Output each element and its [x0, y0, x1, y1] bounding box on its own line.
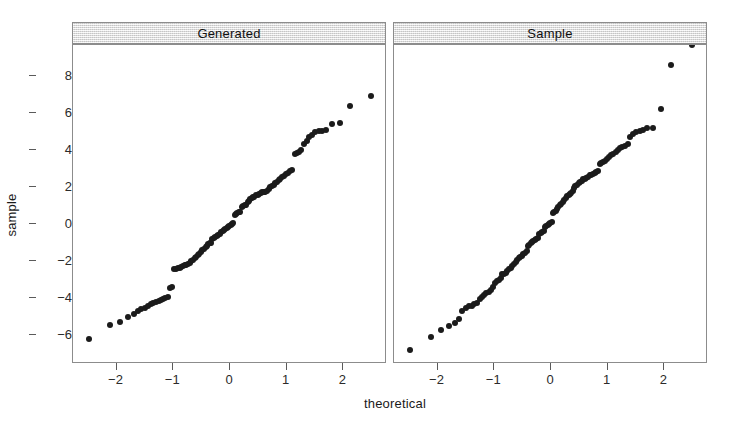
data-point [169, 284, 175, 290]
x-tick-label: 2 [327, 372, 357, 387]
y-tick-label: 0 [38, 215, 72, 230]
x-tick-mark [607, 363, 608, 370]
data-point [668, 62, 674, 68]
data-point [625, 141, 631, 147]
data-point [329, 121, 335, 127]
data-point [230, 220, 236, 226]
x-tick-mark [493, 363, 494, 370]
plot-area [72, 44, 386, 363]
x-tick-label: 2 [648, 372, 678, 387]
y-tick-mark [29, 260, 36, 261]
x-tick-mark [229, 363, 230, 370]
x-tick-label: −1 [157, 372, 187, 387]
data-point [298, 147, 304, 153]
x-tick-mark [550, 363, 551, 370]
data-point [323, 127, 329, 133]
data-point [456, 316, 462, 322]
x-tick-mark [116, 363, 117, 370]
data-point [107, 322, 113, 328]
data-point [689, 44, 695, 48]
panel-strip-label: Generated [72, 22, 386, 44]
x-axis-label: theoretical [72, 396, 718, 411]
data-point [658, 106, 664, 112]
x-tick-label: −2 [101, 372, 131, 387]
data-point [337, 120, 343, 126]
data-point [117, 319, 123, 325]
y-tick-label: 8 [38, 67, 72, 82]
data-point [347, 103, 353, 109]
y-tick-mark [29, 149, 36, 150]
y-tick-label: 4 [38, 141, 72, 156]
y-tick-mark [29, 297, 36, 298]
y-tick-mark [29, 186, 36, 187]
y-tick-label: −2 [38, 253, 72, 268]
data-point [428, 334, 434, 340]
x-tick-label: 0 [535, 372, 565, 387]
data-point [368, 93, 374, 99]
data-point [407, 347, 413, 353]
y-axis: 86420−2−4−6 [29, 0, 72, 430]
x-tick-label: −2 [422, 372, 452, 387]
y-tick-label: −6 [38, 327, 72, 342]
data-point [438, 327, 444, 333]
qq-plot-figure: sample 86420−2−4−6 Generated−2−1012Sampl… [0, 0, 734, 430]
x-tick-label: 1 [592, 372, 622, 387]
panel-strip-label: Sample [393, 22, 707, 44]
data-point [650, 125, 656, 131]
x-tick-mark [342, 363, 343, 370]
x-axis: −2−1012 [72, 363, 386, 393]
y-tick-mark [29, 75, 36, 76]
y-tick-mark [29, 112, 36, 113]
y-tick-mark [29, 334, 36, 335]
data-point [595, 168, 601, 174]
x-tick-mark [286, 363, 287, 370]
x-tick-label: 0 [214, 372, 244, 387]
data-point [549, 219, 555, 225]
data-point [524, 248, 530, 254]
y-tick-label: −4 [38, 290, 72, 305]
data-point [86, 336, 92, 342]
x-axis: −2−1012 [393, 363, 707, 393]
plot-area [393, 44, 707, 363]
x-tick-label: 1 [271, 372, 301, 387]
y-axis-label: sample [0, 0, 22, 430]
data-point [165, 294, 171, 300]
x-tick-mark [437, 363, 438, 370]
y-tick-mark [29, 223, 36, 224]
x-tick-mark [663, 363, 664, 370]
data-point [289, 167, 295, 173]
x-tick-label: −1 [478, 372, 508, 387]
x-tick-mark [172, 363, 173, 370]
y-tick-label: 2 [38, 178, 72, 193]
y-tick-label: 6 [38, 104, 72, 119]
